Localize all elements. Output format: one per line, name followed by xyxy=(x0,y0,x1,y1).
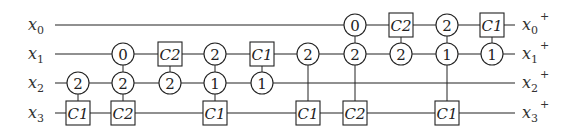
output-label-x1: x1+ xyxy=(522,39,549,66)
input-label-x1: x1 xyxy=(28,44,44,66)
control-value: 2 xyxy=(165,75,175,93)
control-value: 0 xyxy=(118,46,128,64)
target-op: C1 xyxy=(251,46,272,64)
control-value: 2 xyxy=(210,46,220,64)
control-value: 1 xyxy=(442,46,452,64)
output-label-x0: x0+ xyxy=(522,10,549,37)
control-value: 2 xyxy=(73,75,83,93)
gates: 2C102C2C2221C1C112C102C2C2221C1C11 xyxy=(66,13,504,125)
target-op: C1 xyxy=(67,105,88,123)
wires xyxy=(55,25,515,113)
target-op: C1 xyxy=(204,105,225,123)
wire-labels: x0x0+x1x1+x2x2+x3x3+ xyxy=(28,10,549,125)
target-op: C2 xyxy=(344,105,365,123)
target-op: C2 xyxy=(159,46,180,64)
control-lines xyxy=(78,25,492,113)
target-op: C1 xyxy=(297,105,318,123)
control-value: 2 xyxy=(350,46,360,64)
target-op: C2 xyxy=(390,17,411,35)
control-value: 2 xyxy=(442,17,452,35)
output-label-x3: x3+ xyxy=(522,98,549,125)
control-value: 1 xyxy=(210,75,220,93)
target-op: C2 xyxy=(112,105,133,123)
output-label-x2: x2+ xyxy=(522,68,549,95)
target-op: C1 xyxy=(436,105,457,123)
input-label-x0: x0 xyxy=(28,15,44,37)
target-op: C1 xyxy=(481,17,502,35)
control-value: 1 xyxy=(487,46,497,64)
input-label-x2: x2 xyxy=(28,73,44,95)
control-value: 2 xyxy=(118,75,128,93)
circuit-diagram: 2C102C2C2221C1C112C102C2C2221C1C11 x0x0+… xyxy=(0,0,578,136)
control-value: 0 xyxy=(350,17,360,35)
control-value: 2 xyxy=(396,46,406,64)
control-value: 1 xyxy=(257,75,267,93)
input-label-x3: x3 xyxy=(28,103,44,125)
control-value: 2 xyxy=(303,46,313,64)
